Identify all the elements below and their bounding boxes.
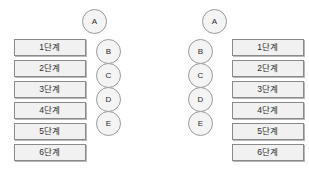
node-circle-label: B bbox=[106, 48, 111, 56]
step-box: 3단계 bbox=[232, 81, 304, 98]
diagram-panel-right: 1단계 2단계 3단계 4단계 5단계 6단계 A B C bbox=[155, 0, 309, 182]
step-box: 2단계 bbox=[232, 60, 304, 77]
node-circle: D bbox=[96, 87, 121, 112]
step-box-label: 4단계 bbox=[257, 106, 278, 115]
node-circle: A bbox=[202, 9, 227, 34]
step-box-label: 1단계 bbox=[39, 43, 60, 52]
step-box: 1단계 bbox=[232, 39, 304, 56]
step-box-label: 2단계 bbox=[257, 64, 278, 73]
node-circle: D bbox=[188, 87, 213, 112]
node-circle: B bbox=[96, 39, 121, 64]
step-box-column-left: 1단계 2단계 3단계 4단계 5단계 6단계 bbox=[14, 39, 86, 161]
step-box-label: 6단계 bbox=[39, 148, 60, 157]
step-box: 6단계 bbox=[14, 144, 86, 161]
step-box-column-right: 1단계 2단계 3단계 4단계 5단계 6단계 bbox=[232, 39, 304, 161]
step-box-label: 1단계 bbox=[257, 43, 278, 52]
step-box: 5단계 bbox=[14, 123, 86, 140]
step-box: 2단계 bbox=[14, 60, 86, 77]
node-circle-label: A bbox=[212, 18, 217, 26]
node-circle: A bbox=[82, 9, 107, 34]
step-box-label: 5단계 bbox=[39, 127, 60, 136]
node-circle: C bbox=[188, 63, 213, 88]
step-box: 6단계 bbox=[232, 144, 304, 161]
step-box: 1단계 bbox=[14, 39, 86, 56]
step-box-label: 4단계 bbox=[39, 106, 60, 115]
node-circle: C bbox=[96, 63, 121, 88]
node-circle-label: C bbox=[106, 72, 112, 80]
node-circle-label: D bbox=[198, 96, 204, 104]
node-circle: B bbox=[188, 39, 213, 64]
node-circle-label: C bbox=[198, 72, 204, 80]
step-box-label: 6단계 bbox=[257, 148, 278, 157]
node-circle-label: D bbox=[106, 96, 112, 104]
step-box: 5단계 bbox=[232, 123, 304, 140]
step-box-label: 5단계 bbox=[257, 127, 278, 136]
node-circle-label: A bbox=[92, 18, 97, 26]
step-box-label: 2단계 bbox=[39, 64, 60, 73]
step-box: 3단계 bbox=[14, 81, 86, 98]
node-circle-label: E bbox=[106, 120, 111, 128]
step-box: 4단계 bbox=[232, 102, 304, 119]
diagram-panel-left: 1단계 2단계 3단계 4단계 5단계 6단계 A B C bbox=[0, 0, 154, 182]
node-circle: E bbox=[96, 111, 121, 136]
step-box: 4단계 bbox=[14, 102, 86, 119]
diagram-canvas: 1단계 2단계 3단계 4단계 5단계 6단계 A B C bbox=[0, 0, 309, 182]
node-circle-label: B bbox=[198, 48, 203, 56]
node-circle-label: E bbox=[198, 120, 203, 128]
step-box-label: 3단계 bbox=[39, 85, 60, 94]
node-circle: E bbox=[188, 111, 213, 136]
step-box-label: 3단계 bbox=[257, 85, 278, 94]
